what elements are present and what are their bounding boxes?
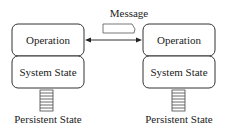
right-persistent-state-label: Persistent State [131, 113, 227, 125]
left-system-state-label: System State [12, 66, 84, 78]
right-operation-label: Operation [143, 34, 215, 46]
left-operation-label: Operation [12, 34, 84, 46]
right-system-state-label: System State [143, 66, 215, 78]
left-database-icon [40, 90, 53, 111]
left-persistent-state-label: Persistent State [0, 113, 96, 125]
right-database-icon [172, 90, 185, 111]
message-arrow [85, 38, 142, 43]
message-label: Message [104, 7, 154, 19]
diagram-canvas [0, 0, 229, 130]
message-envelope-icon [103, 24, 135, 33]
